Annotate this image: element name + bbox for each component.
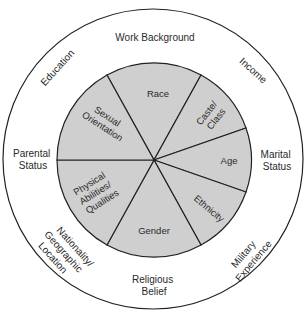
label-work-background: Work Background	[115, 32, 194, 43]
label-parental-status: Parental Status	[13, 148, 53, 171]
label-race: Race	[147, 88, 169, 99]
diversity-wheel-diagram: Race Caste/ Class Age Ethnicity Gender P…	[0, 0, 305, 314]
label-gender: Gender	[138, 225, 170, 236]
label-age: Age	[221, 155, 238, 166]
label-marital-status: Marital Status	[261, 149, 294, 172]
